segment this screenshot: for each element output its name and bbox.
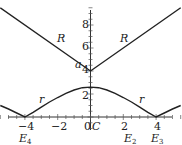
- label-r-left: r: [39, 93, 45, 106]
- x-tick-label-minus2: −2: [51, 120, 67, 133]
- y-tick-label-6: 6: [82, 40, 89, 53]
- x-tick-label-0: 0: [84, 120, 91, 133]
- label-R-right: R: [119, 32, 128, 45]
- label-E4: E: [18, 132, 27, 145]
- y-tick-label-8: 8: [82, 18, 89, 31]
- label-E2: E: [123, 132, 132, 145]
- y-tick-label-4: 4: [82, 63, 89, 76]
- label-E3-subscript: 3: [159, 138, 163, 145]
- label-E2-subscript: 2: [132, 138, 136, 145]
- label-E4-subscript: 4: [27, 138, 32, 145]
- label-E3: E: [150, 132, 159, 145]
- diagram-canvas: −4 −2 0 2 4 2 4 6 8 R R a r r C E 4 E 2 …: [0, 0, 182, 145]
- label-R-left: R: [56, 32, 65, 45]
- label-C: C: [92, 120, 101, 133]
- label-r-right: r: [139, 93, 145, 106]
- label-a: a: [75, 58, 82, 71]
- y-tick-label-2: 2: [82, 89, 89, 102]
